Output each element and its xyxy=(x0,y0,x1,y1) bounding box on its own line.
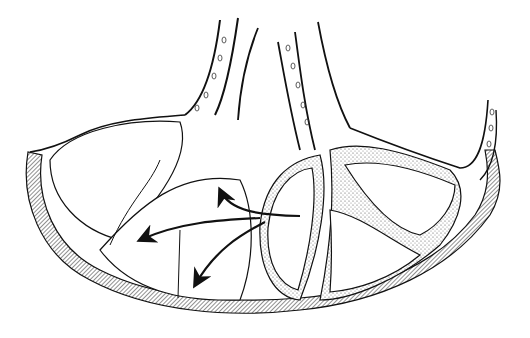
right-lobules xyxy=(260,146,461,300)
illustration xyxy=(0,0,530,338)
